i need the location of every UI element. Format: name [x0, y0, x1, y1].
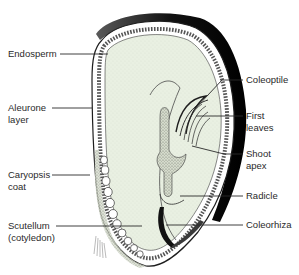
- label-shoot-apex: Shoot apex: [246, 148, 271, 172]
- seed-diagram: Endosperm Aleurone layer Caryopsis coat …: [0, 0, 299, 275]
- label-caryopsis-coat: Caryopsis coat: [8, 169, 50, 193]
- label-coleoptile: Coleoptile: [246, 74, 288, 86]
- label-coleorhiza: Coleorhiza: [246, 219, 291, 231]
- basal-hairs: [94, 236, 106, 258]
- label-scutellum: Scutellum (cotyledon): [8, 220, 55, 244]
- label-first-leaves: First leaves: [246, 110, 273, 134]
- label-aleurone-layer: Aleurone layer: [8, 102, 46, 126]
- label-radicle: Radicle: [246, 190, 278, 202]
- label-endosperm: Endosperm: [8, 48, 57, 60]
